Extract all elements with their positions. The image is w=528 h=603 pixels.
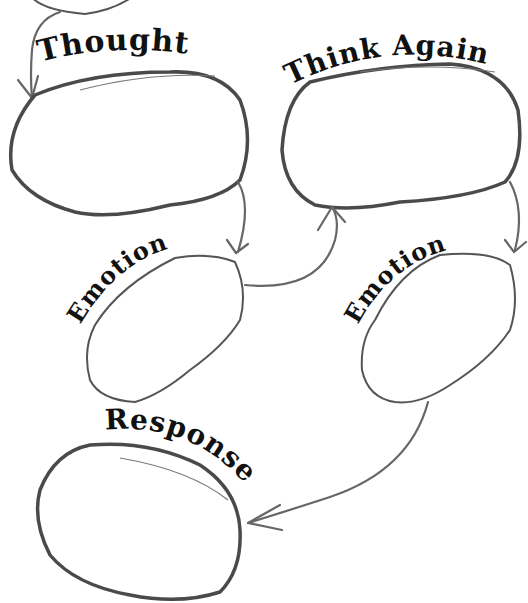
- response-box[interactable]: [38, 444, 241, 599]
- thought-label: Thought: [33, 22, 191, 69]
- worksheet-diagram: Thought Think Again Emotion Emotion: [0, 0, 528, 603]
- previous-blob-partial: [30, 0, 135, 14]
- arrow-thought-to-emotion: [227, 182, 248, 253]
- arrow-think-again-to-emotion: [505, 182, 526, 252]
- arrow-emotion-to-response: [248, 402, 428, 530]
- think-again-box[interactable]: [282, 64, 520, 208]
- thought-box[interactable]: [11, 72, 248, 215]
- arrow-emotion-to-think-again: [245, 207, 345, 286]
